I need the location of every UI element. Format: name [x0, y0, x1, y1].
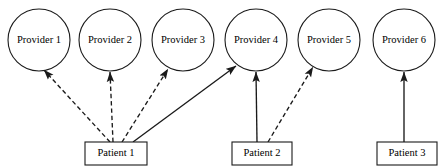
edge-patient2-provider5: [268, 67, 313, 142]
edge-patient2-provider4: [256, 72, 257, 142]
edge-patient1-provider3: [122, 69, 168, 142]
patient-3[interactable]: Patient 3: [377, 142, 437, 165]
edges-layer: [44, 66, 404, 142]
edge-patient1-provider2: [110, 72, 113, 142]
provider-3[interactable]: Provider 3: [152, 9, 214, 71]
provider-4-label: Provider 4: [234, 34, 279, 45]
patient-2-label: Patient 2: [243, 147, 280, 158]
provider-6[interactable]: Provider 6: [373, 9, 435, 71]
provider-2[interactable]: Provider 2: [79, 9, 141, 71]
provider-2-label: Provider 2: [88, 34, 132, 45]
diagram-canvas: Provider 1Provider 2Provider 3Provider 4…: [0, 0, 444, 167]
patient-2[interactable]: Patient 2: [232, 142, 292, 165]
provider-5[interactable]: Provider 5: [298, 9, 360, 71]
nodes-layer: Provider 1Provider 2Provider 3Provider 4…: [8, 9, 437, 165]
provider-6-label: Provider 6: [382, 34, 426, 45]
edge-patient1-provider4: [133, 66, 236, 142]
edge-patient1-provider1: [44, 70, 110, 142]
provider-patient-diagram: Provider 1Provider 2Provider 3Provider 4…: [0, 0, 444, 167]
provider-5-label: Provider 5: [307, 34, 351, 45]
patient-3-label: Patient 3: [388, 147, 425, 158]
provider-1[interactable]: Provider 1: [8, 9, 70, 71]
provider-4[interactable]: Provider 4: [225, 9, 287, 71]
provider-3-label: Provider 3: [161, 34, 205, 45]
provider-1-label: Provider 1: [17, 34, 61, 45]
patient-1[interactable]: Patient 1: [85, 142, 147, 165]
patient-1-label: Patient 1: [97, 147, 134, 158]
